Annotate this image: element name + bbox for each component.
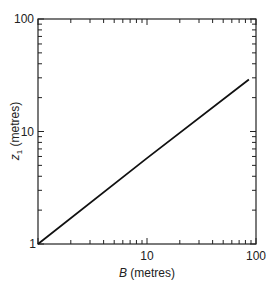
xtick-label-10: 10 <box>140 249 154 263</box>
chart: 100 10 1 10 100 B (metres) z1 (metres) <box>0 0 278 281</box>
x-axis-title: B (metres) <box>119 266 175 280</box>
xtick-label-100: 100 <box>246 249 266 263</box>
ytick-label-100: 100 <box>14 12 34 26</box>
data-line <box>38 80 249 245</box>
plot-frame <box>38 19 256 244</box>
ytick-label-10: 10 <box>21 125 35 139</box>
ytick-label-1: 1 <box>29 237 36 251</box>
y-axis-title: z1 (metres) <box>8 102 24 161</box>
axis-ticks <box>38 19 256 244</box>
